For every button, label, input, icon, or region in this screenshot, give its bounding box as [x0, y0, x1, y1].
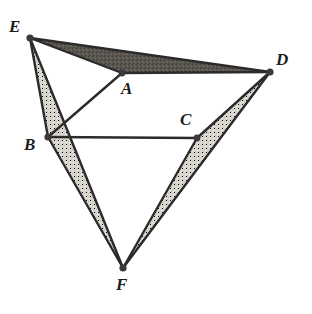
vertex-dot-E: [26, 34, 33, 41]
segment-CD: [197, 72, 270, 138]
segment-CF: [123, 138, 197, 268]
vertex-dot-B: [44, 133, 51, 140]
point-label-D: D: [276, 51, 288, 68]
segment-BF: [48, 137, 123, 268]
point-label-E: E: [9, 18, 20, 35]
segment-EF: [30, 38, 123, 268]
vertex-dot-F: [119, 264, 126, 271]
point-label-F: F: [116, 276, 127, 293]
geometry-figure: E D A C B F: [0, 0, 312, 314]
vertex-dot-C: [194, 135, 201, 142]
point-label-A: A: [121, 80, 132, 97]
figure-canvas: [0, 0, 312, 314]
vertex-dot-A: [119, 70, 126, 77]
segment-AD: [122, 72, 270, 73]
point-label-B: B: [24, 136, 35, 153]
segment-BC: [48, 137, 197, 138]
segment-BA: [48, 73, 122, 137]
vertex-dot-D: [266, 68, 273, 75]
segment-DF: [123, 72, 270, 268]
point-label-C: C: [180, 111, 191, 128]
